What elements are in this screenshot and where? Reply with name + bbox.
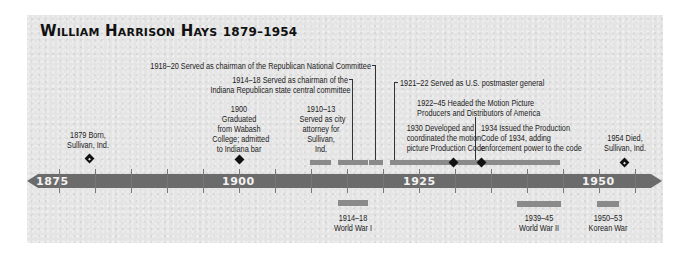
war-name: Korean War: [587, 223, 628, 233]
event-text: Sullivan, Ind.: [62, 140, 114, 150]
tick: [167, 169, 168, 193]
timeline-axis: [38, 174, 651, 188]
event-text: 1918–20 Served as chairman of the Republ…: [147, 61, 371, 71]
war-years: 1950–53: [587, 213, 628, 223]
event-text: attorney for: [300, 124, 343, 134]
event-text: 1930 Developed and: [407, 123, 472, 133]
event-died: 1954 Died, Sullivan, Ind.: [601, 133, 649, 153]
event-text: from Wabash: [212, 124, 265, 134]
event-text: 1900: [212, 104, 265, 114]
event-text: 1910–13: [300, 104, 343, 114]
event-production-code-1934: 1934 Issued the Production Code of 1934,…: [481, 123, 576, 153]
span-bar-state-committee: [338, 160, 368, 165]
tick: [203, 169, 204, 193]
tick: [275, 169, 276, 193]
connector-postmaster-cap: [394, 82, 398, 83]
tick: [347, 169, 348, 193]
event-city-attorney: 1910–13 Served as city attorney for Sull…: [300, 104, 343, 154]
tick: [455, 169, 456, 193]
event-born: 1879 Born, Sullivan, Ind.: [62, 130, 114, 150]
event-text: 1934 Issued the Production: [481, 123, 576, 133]
tick: [95, 169, 96, 193]
event-text: coordinated the motion: [407, 133, 472, 143]
event-text: picture Production Code: [407, 143, 472, 153]
span-bar-national-committee: [369, 160, 383, 165]
tick: [383, 169, 384, 193]
connector-postmaster: [394, 82, 395, 160]
event-text: enforcement power to the code: [481, 143, 576, 153]
war-years: 1939–45: [517, 213, 562, 223]
event-text: Ind.: [300, 144, 343, 154]
title-name: William Harrison Hays: [40, 22, 217, 40]
war-years: 1914–18: [332, 213, 375, 223]
event-text: to Indiana bar: [212, 144, 265, 154]
connector-state-committee: [352, 79, 353, 160]
war-name: World War I: [332, 223, 375, 233]
year-label-1925: 1925: [403, 175, 436, 188]
event-text: Sullivan, Ind.: [601, 143, 649, 153]
war-bar-ww2: [517, 201, 561, 207]
event-production-code-1930: 1930 Developed and coordinated the motio…: [407, 123, 472, 153]
year-label-1900: 1900: [222, 175, 255, 188]
tick: [563, 169, 564, 193]
event-text: College; admitted: [212, 134, 265, 144]
tick: [311, 169, 312, 193]
event-national-committee: 1918–20 Served as chairman of the Republ…: [147, 61, 371, 71]
tick: [527, 169, 528, 193]
connector-national-committee: [375, 65, 376, 160]
event-state-committee: 1914–18 Served as chairman of the Indian…: [210, 75, 348, 95]
event-text: 1879 Born,: [62, 130, 114, 140]
war-bar-korea: [597, 201, 619, 207]
connector-national-committee-cap: [372, 65, 376, 66]
war-ww1: 1914–18 World War I: [332, 213, 375, 233]
connector-state-committee-cap: [349, 79, 353, 80]
event-postmaster: 1921–22 Served as U.S. postmaster genera…: [400, 78, 546, 88]
war-name: World War II: [517, 223, 562, 233]
span-bar-city-attorney: [310, 160, 331, 165]
axis-right-arrow: [651, 174, 662, 188]
tick: [131, 169, 132, 193]
tick: [491, 169, 492, 193]
event-text: Producers and Distributors of America: [417, 108, 529, 118]
event-text: Code of 1934, adding: [481, 133, 576, 143]
event-text: Sullivan,: [300, 134, 343, 144]
timeline-title: William Harrison Hays 1879–1954: [40, 22, 297, 40]
year-label-1875: 1875: [36, 175, 69, 188]
event-text: 1914–18 Served as chairman of the: [210, 75, 348, 85]
event-text: Graduated: [212, 114, 265, 124]
year-label-1950: 1950: [582, 175, 615, 188]
war-korea: 1950–53 Korean War: [587, 213, 628, 233]
title-years: 1879–1954: [223, 25, 298, 39]
event-graduated: 1900 Graduated from Wabash College; admi…: [212, 104, 265, 154]
event-text: 1954 Died,: [601, 133, 649, 143]
war-ww2: 1939–45 World War II: [517, 213, 562, 233]
war-bar-ww1: [338, 200, 368, 206]
event-mppda: 1922–45 Headed the Motion Picture Produc…: [417, 98, 529, 118]
event-text: 1922–45 Headed the Motion Picture: [417, 98, 529, 108]
span-bar-postmaster: [390, 160, 398, 165]
event-text: Served as city: [300, 114, 343, 124]
event-text: 1921–22 Served as U.S. postmaster genera…: [400, 78, 546, 88]
tick: [635, 169, 636, 193]
event-text: Indiana Republican state central committ…: [210, 85, 348, 95]
